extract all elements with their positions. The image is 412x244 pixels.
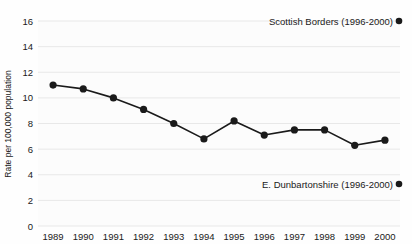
chart-container: 0246810121416 Rate per 100,000 populatio… — [0, 0, 412, 244]
data-point-marker — [261, 131, 268, 138]
data-point-marker — [321, 126, 328, 133]
legend-scottish-borders: Scottish Borders (1996-2000) — [269, 16, 402, 27]
data-point-marker — [49, 81, 56, 88]
y-axis-tick-label: 10 — [22, 92, 33, 103]
legend-label-e-dunbartonshire: E. Dunbartonshire (1996-2000) — [262, 179, 393, 190]
data-point-marker — [381, 137, 388, 144]
x-axis-tick-label: 1990 — [73, 231, 94, 242]
y-axis-tick-label: 0 — [28, 221, 33, 232]
y-axis-tick-label: 16 — [22, 16, 33, 27]
x-axis-tick-label: 1995 — [224, 231, 245, 242]
x-axis-tick-label: 1989 — [43, 231, 64, 242]
data-point-marker — [351, 142, 358, 149]
y-axis-tick-label: 2 — [28, 195, 33, 206]
x-axis-tick-label: 1999 — [344, 231, 365, 242]
y-axis-tick-label: 12 — [22, 67, 33, 78]
data-point-marker — [200, 135, 207, 142]
data-point-marker — [110, 94, 117, 101]
y-axis-tick-label: 4 — [28, 169, 33, 180]
x-axis-tick-label: 1993 — [163, 231, 184, 242]
data-point-marker — [291, 126, 298, 133]
y-axis-tick-label: 8 — [28, 118, 33, 129]
legend-marker-scottish-borders-icon — [396, 18, 403, 25]
y-axis-tick-label: 14 — [22, 41, 33, 52]
x-axis-tick-label: 1998 — [314, 231, 335, 242]
legend-marker-e-dunbartonshire-icon — [396, 181, 403, 188]
x-axis-tick-label: 1997 — [284, 231, 305, 242]
data-point-marker — [80, 85, 87, 92]
data-point-marker — [140, 106, 147, 113]
data-point-marker — [170, 120, 177, 127]
y-axis-title: Rate per 100,000 population — [3, 70, 13, 178]
x-axis-tick-label: 1996 — [254, 231, 275, 242]
x-axis-tick-label: 1992 — [133, 231, 154, 242]
data-point-marker — [230, 117, 237, 124]
y-axis-tick-label: 6 — [28, 144, 33, 155]
x-axis-tick-label: 1991 — [103, 231, 124, 242]
legend-e-dunbartonshire: E. Dunbartonshire (1996-2000) — [262, 179, 402, 190]
x-axis-tick-label: 1994 — [193, 231, 214, 242]
line-chart: 0246810121416 Rate per 100,000 populatio… — [0, 0, 412, 244]
legend-label-scottish-borders: Scottish Borders (1996-2000) — [269, 16, 393, 27]
x-axis-tick-label: 2000 — [374, 231, 395, 242]
